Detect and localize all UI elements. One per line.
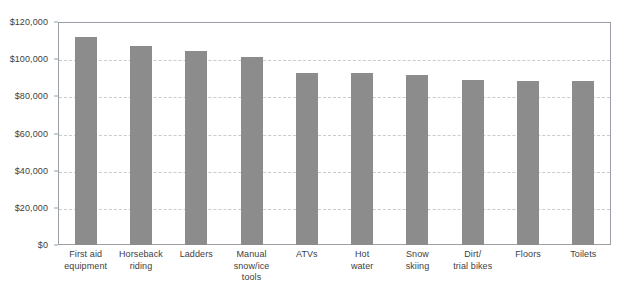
bar[interactable] (241, 57, 263, 245)
y-axis-tick-label: $0 (38, 240, 48, 250)
x-axis-tick-label-line: water (335, 261, 390, 273)
x-axis-tick-label: Horsebackriding (113, 249, 168, 272)
bar[interactable] (462, 80, 484, 245)
y-axis-tick-label: $60,000 (15, 129, 48, 139)
bar-group (406, 22, 428, 245)
x-axis-tick-label-line: trial bikes (445, 261, 500, 273)
y-axis-tick-label: $80,000 (15, 91, 48, 101)
bar-group (517, 22, 539, 245)
x-axis-tick-label-line: Toilets (556, 249, 611, 261)
x-axis-tick-label-line: Ladders (169, 249, 224, 261)
x-axis-tick-label: ATVs (279, 249, 334, 261)
x-axis-tick-label-line: skiing (390, 261, 445, 273)
bar-group (351, 22, 373, 245)
bar-group (296, 22, 318, 245)
x-axis-tick-label: Toilets (556, 249, 611, 261)
bar-group (75, 22, 97, 245)
y-axis-tick-label: $20,000 (15, 203, 48, 213)
x-axis-tick-label: Dirt/trial bikes (445, 249, 500, 272)
bars-layer (58, 22, 611, 245)
x-axis-tick-label: Snowskiing (390, 249, 445, 272)
y-axis-tick-label: $100,000 (10, 54, 48, 64)
x-axis-tick-label-line: Snow (390, 249, 445, 261)
y-axis-tick-label: $120,000 (10, 17, 48, 27)
bar[interactable] (351, 73, 373, 245)
bar-group (130, 22, 152, 245)
x-axis-tick-label-line: Floors (500, 249, 555, 261)
x-axis-tick-label: Hotwater (335, 249, 390, 272)
bar[interactable] (296, 73, 318, 245)
x-axis-tick-label-line: equipment (58, 261, 113, 273)
bar[interactable] (517, 81, 539, 245)
bar-chart: $0$20,000$40,000$60,000$80,000$100,000$1… (0, 0, 630, 288)
x-axis-tick-label-line: riding (113, 261, 168, 273)
bar-group (241, 22, 263, 245)
x-axis-tick-label-line: Hot (335, 249, 390, 261)
x-axis-tick-label-line: ATVs (279, 249, 334, 261)
bar[interactable] (572, 81, 594, 245)
x-axis-tick-label: Manualsnow/ice tools (224, 249, 279, 284)
x-axis-tick-label: First aidequipment (58, 249, 113, 272)
bar[interactable] (406, 75, 428, 245)
x-axis-tick-label-line: snow/ice tools (224, 261, 279, 284)
x-axis-tick-label-line: Manual (224, 249, 279, 261)
bar[interactable] (75, 37, 97, 245)
bar-group (462, 22, 484, 245)
x-axis-tick-label-line: Dirt/ (445, 249, 500, 261)
bar-group (185, 22, 207, 245)
x-axis-tick-label: Ladders (169, 249, 224, 261)
x-axis: First aidequipmentHorsebackridingLadders… (58, 249, 611, 288)
bar-group (572, 22, 594, 245)
bar[interactable] (130, 46, 152, 245)
x-axis-tick-label-line: Horseback (113, 249, 168, 261)
y-axis-tick-label: $40,000 (15, 166, 48, 176)
y-axis: $0$20,000$40,000$60,000$80,000$100,000$1… (0, 0, 56, 288)
x-axis-tick-label: Floors (500, 249, 555, 261)
bar[interactable] (185, 51, 207, 245)
x-axis-tick-label-line: First aid (58, 249, 113, 261)
